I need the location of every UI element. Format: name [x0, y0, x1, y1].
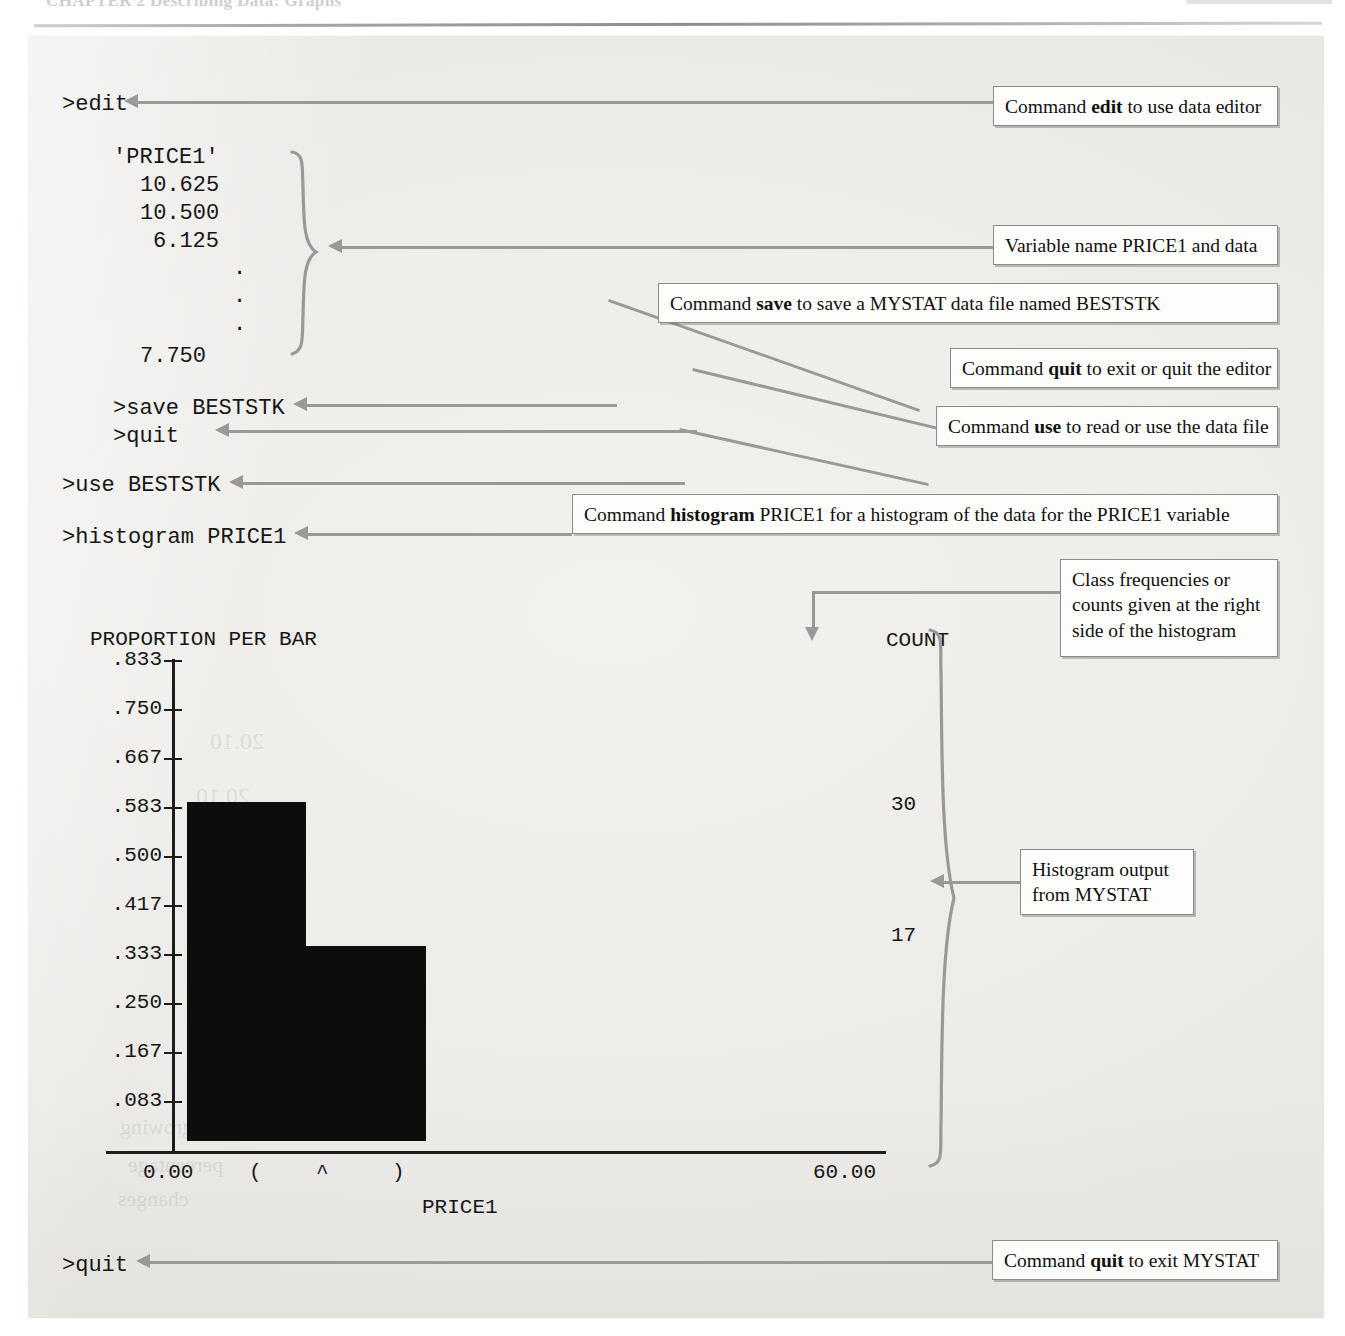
page-header-strip: CHAPTER 2 Describing Data: Graphs	[0, 0, 1345, 34]
terminal-line-data-1: 10.625	[140, 173, 219, 198]
callout-histogram-suffix: PRICE1 for a histogram of the data for t…	[755, 504, 1230, 525]
callout-quit-mystat-keyword: quit	[1090, 1250, 1124, 1271]
callout-quit-mystat-suffix: to exit MYSTAT	[1124, 1250, 1259, 1271]
callout-edit: Command edit to use data editor	[993, 86, 1278, 126]
leader-line-edit	[138, 101, 994, 104]
callout-use-suffix: to read or use the data file	[1061, 416, 1268, 437]
terminal-line-use: >use BESTSTK	[62, 473, 220, 498]
terminal-line-ellipsis-1: .	[233, 256, 246, 281]
callout-save-prefix: Command	[670, 293, 756, 314]
callout-use-prefix: Command	[948, 416, 1034, 437]
arrow-histogram	[294, 526, 308, 540]
callout-variable: Variable name PRICE1 and data	[993, 225, 1278, 265]
callout-edit-prefix: Command	[1005, 96, 1091, 117]
callout-histogram-keyword: histogram	[670, 504, 755, 525]
callout-save-suffix: to save a MYSTAT data file named BESTSTK	[792, 293, 1161, 314]
terminal-line-quit-editor: >quit	[113, 424, 179, 449]
callout-quit-editor-suffix: to exit or quit the editor	[1082, 358, 1272, 379]
leader-line-output	[944, 881, 1021, 884]
arrow-quit-editor	[215, 423, 229, 437]
callout-use-keyword: use	[1034, 416, 1061, 437]
callout-output: Histogram output from MYSTAT	[1020, 849, 1194, 915]
leader-line-histogram	[308, 533, 572, 536]
running-head-text: CHAPTER 2 Describing Data: Graphs	[46, 0, 342, 11]
terminal-line-ellipsis-2: .	[233, 284, 246, 309]
terminal-line-variable: 'PRICE1'	[113, 145, 219, 170]
terminal-line-edit: >edit	[62, 92, 128, 117]
callout-counts-text: Class frequencies or counts given at the…	[1072, 569, 1260, 641]
arrow-output	[930, 874, 944, 888]
arrow-save	[293, 397, 307, 411]
callout-quit-editor: Command quit to exit or quit the editor	[950, 348, 1278, 388]
callout-edit-keyword: edit	[1091, 96, 1122, 117]
arrow-variable	[328, 239, 342, 253]
callout-counts: Class frequencies or counts given at the…	[1060, 559, 1278, 657]
terminal-line-data-2: 10.500	[140, 201, 219, 226]
terminal-line-data-3: 6.125	[153, 229, 219, 254]
leader-line-quit-editor	[229, 430, 697, 433]
callout-save: Command save to save a MYSTAT data file …	[658, 283, 1278, 323]
leader-line-use	[243, 482, 685, 485]
callout-histogram: Command histogram PRICE1 for a histogram…	[572, 494, 1278, 534]
leader-line-counts	[812, 591, 1061, 594]
leader-line-variable	[342, 246, 994, 249]
callout-use: Command use to read or use the data file	[936, 406, 1278, 446]
terminal-line-save: >save BESTSTK	[113, 396, 285, 421]
terminal-line-quit-mystat: >quit	[62, 1253, 128, 1278]
leader-line-quit-mystat	[150, 1261, 993, 1264]
callout-histogram-prefix: Command	[584, 504, 670, 525]
callout-save-keyword: save	[756, 293, 792, 314]
callout-variable-text: Variable name PRICE1 and data	[1005, 235, 1257, 256]
callout-quit-mystat-prefix: Command	[1004, 1250, 1090, 1271]
leader-line-save	[307, 404, 617, 407]
document-page: CHAPTER 2 Describing Data: Graphs 20.10 …	[0, 0, 1345, 1336]
terminal-line-data-last: 7.750	[140, 344, 206, 369]
leader-line-counts-vertical	[812, 591, 815, 629]
running-head-block	[1186, 0, 1332, 4]
callout-output-text: Histogram output from MYSTAT	[1032, 859, 1169, 905]
arrow-quit-mystat	[136, 1254, 150, 1268]
data-group-brace	[286, 148, 332, 360]
callout-quit-mystat: Command quit to exit MYSTAT	[992, 1240, 1278, 1280]
arrow-use	[229, 475, 243, 489]
callout-quit-editor-keyword: quit	[1048, 358, 1082, 379]
callout-edit-suffix: to use data editor	[1123, 96, 1262, 117]
arrow-edit	[124, 94, 138, 108]
terminal-line-ellipsis-3: .	[233, 312, 246, 337]
arrow-counts	[805, 627, 819, 641]
terminal-line-histogram: >histogram PRICE1	[62, 525, 286, 550]
callout-quit-editor-prefix: Command	[962, 358, 1048, 379]
